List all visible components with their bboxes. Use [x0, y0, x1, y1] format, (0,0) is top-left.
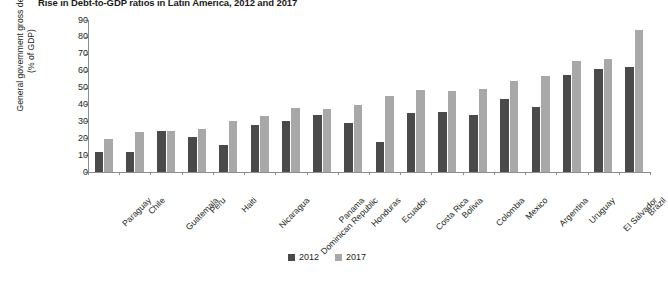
bar-2017[interactable]: [104, 139, 113, 172]
bar-2017[interactable]: [604, 59, 613, 172]
bar-2017[interactable]: [323, 109, 332, 172]
bar-2017[interactable]: [167, 131, 176, 172]
x-axis-label-ecuador: Ecuador: [400, 196, 429, 225]
bar-2017[interactable]: [354, 105, 363, 172]
bar-group: [213, 20, 244, 172]
bar-2017[interactable]: [479, 89, 488, 172]
x-axis-label-uruguay: Uruguay: [587, 196, 616, 225]
x-axis-tick-mark: [525, 172, 526, 175]
y-axis-tick-label: 60: [56, 66, 88, 75]
bar-group: [619, 20, 650, 172]
legend-item-2012[interactable]: 2012: [288, 252, 319, 262]
bar-2012[interactable]: [282, 121, 291, 172]
bar-2012[interactable]: [376, 142, 385, 172]
y-axis-tick-label: 70: [56, 49, 88, 58]
x-axis-label-colombia: Colombia: [495, 196, 527, 228]
bar-group: [244, 20, 275, 172]
x-axis-tick-mark: [463, 172, 464, 175]
bar-2012[interactable]: [219, 145, 228, 172]
bar-2017[interactable]: [448, 91, 457, 172]
y-axis-tick-label: 0: [56, 168, 88, 177]
x-axis-tick-mark: [494, 172, 495, 175]
x-axis-tick-mark: [307, 172, 308, 175]
x-axis-tick-mark: [338, 172, 339, 175]
bar-2017[interactable]: [541, 76, 550, 172]
y-axis-tick-label: 40: [56, 100, 88, 109]
bar-group: [338, 20, 369, 172]
x-axis-tick-mark: [619, 172, 620, 175]
bar-2012[interactable]: [95, 152, 104, 172]
bar-2017[interactable]: [135, 132, 144, 172]
chart-title: Rise in Debt-to-GDP ratios in Latin Amer…: [38, 0, 297, 8]
x-axis-tick-mark: [400, 172, 401, 175]
bar-2017[interactable]: [572, 61, 581, 172]
legend-item-2017[interactable]: 2017: [335, 252, 366, 262]
bar-group: [182, 20, 213, 172]
bar-group: [525, 20, 556, 172]
bar-2017[interactable]: [416, 90, 425, 172]
x-axis-tick-mark: [588, 172, 589, 175]
chart-legend: 20122017: [0, 252, 654, 262]
bar-2012[interactable]: [594, 69, 603, 172]
x-axis-tick-mark: [150, 172, 151, 175]
y-axis-tick-label: 20: [56, 134, 88, 143]
x-axis-tick-mark: [275, 172, 276, 175]
x-axis-tick-mark: [88, 172, 89, 175]
bar-2012[interactable]: [438, 112, 447, 172]
x-axis-tick-mark: [556, 172, 557, 175]
bar-group: [494, 20, 525, 172]
bar-group: [369, 20, 400, 172]
y-axis-tick-label: 30: [56, 117, 88, 126]
bar-2017[interactable]: [291, 108, 300, 172]
x-axis-label-mexico: Mexico: [523, 196, 549, 222]
y-axis-title-line1: General government gross debt: [15, 0, 25, 111]
bar-group: [463, 20, 494, 172]
bar-2012[interactable]: [532, 107, 541, 172]
bar-2012[interactable]: [625, 67, 634, 172]
bar-2012[interactable]: [407, 113, 416, 172]
x-axis-label-paraguay: Paraguay: [120, 196, 152, 228]
x-axis-tick-mark: [650, 172, 651, 175]
bar-group: [307, 20, 338, 172]
bar-2012[interactable]: [126, 152, 135, 172]
bar-group: [431, 20, 462, 172]
bar-group: [400, 20, 431, 172]
y-axis-tick-label: 80: [56, 32, 88, 41]
y-axis-tick-label: 90: [56, 16, 88, 25]
y-axis-title-line2: (% of GDP): [26, 0, 37, 121]
bar-2017[interactable]: [260, 116, 269, 172]
bar-group: [119, 20, 150, 172]
bar-2017[interactable]: [229, 121, 238, 173]
x-axis-tick-mark: [431, 172, 432, 175]
bar-group: [150, 20, 181, 172]
bar-2012[interactable]: [563, 75, 572, 172]
y-axis-tick-label: 50: [56, 83, 88, 92]
bar-2012[interactable]: [188, 137, 197, 172]
bar-2017[interactable]: [510, 81, 519, 172]
y-axis-title: General government gross debt (% of GDP): [15, 0, 37, 121]
x-axis-tick-mark: [369, 172, 370, 175]
legend-swatch-2017: [335, 254, 342, 261]
bar-group: [556, 20, 587, 172]
x-axis-tick-mark: [182, 172, 183, 175]
bar-2012[interactable]: [313, 115, 322, 172]
bar-2012[interactable]: [500, 99, 509, 172]
legend-label-2017: 2017: [346, 252, 366, 262]
x-axis-tick-mark: [119, 172, 120, 175]
x-axis-tick-mark: [244, 172, 245, 175]
x-axis-tick-mark: [213, 172, 214, 175]
legend-label-2012: 2012: [299, 252, 319, 262]
bar-2012[interactable]: [157, 131, 166, 172]
bar-2017[interactable]: [635, 30, 644, 172]
bar-group: [88, 20, 119, 172]
bar-2017[interactable]: [198, 129, 207, 172]
bar-group: [588, 20, 619, 172]
bar-2017[interactable]: [385, 96, 394, 172]
bar-2012[interactable]: [469, 115, 478, 172]
plot-area: 9080706050403020100ParaguayChileGuatemal…: [88, 20, 650, 172]
legend-swatch-2012: [288, 254, 295, 261]
bar-2012[interactable]: [251, 125, 260, 172]
bar-group: [275, 20, 306, 172]
x-axis-label-argentina: Argentina: [557, 196, 589, 228]
bar-2012[interactable]: [344, 123, 353, 172]
